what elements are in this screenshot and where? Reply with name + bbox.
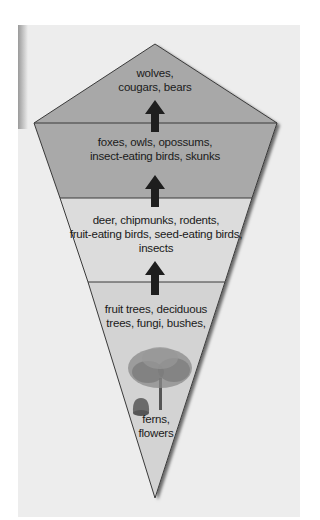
- label-primary: deer, chipmunks, rodents, fruit-eating b…: [62, 213, 250, 255]
- label-tertiary: wolves, cougars, bears: [95, 66, 215, 94]
- label-producers: fruit trees, deciduous trees, fungi, bus…: [95, 302, 217, 330]
- label-line: wolves,: [95, 66, 215, 80]
- label-line: deer, chipmunks, rodents,: [62, 213, 250, 227]
- label-line: fruit-eating birds, seed-eating birds,: [62, 227, 250, 241]
- label-line: ferns,: [130, 412, 182, 426]
- label-line: cougars, bears: [95, 80, 215, 94]
- label-producers-extra: ferns, flowers: [130, 412, 182, 440]
- label-line: insects: [62, 241, 250, 255]
- label-line: trees, fungi, bushes,: [95, 316, 217, 330]
- label-line: flowers: [130, 426, 182, 440]
- label-secondary: foxes, owls, opossums, insect-eating bir…: [70, 135, 240, 163]
- label-line: insect-eating birds, skunks: [70, 149, 240, 163]
- label-line: fruit trees, deciduous: [95, 302, 217, 316]
- label-line: foxes, owls, opossums,: [70, 135, 240, 149]
